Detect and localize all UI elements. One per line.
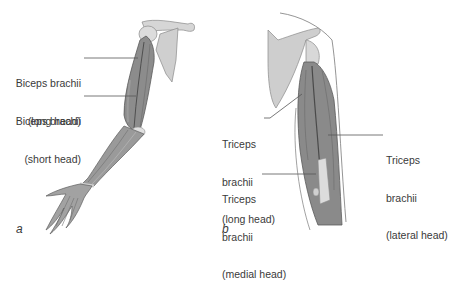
label-line: (short head) (10, 153, 81, 166)
label-biceps-short-head: Biceps brachii (short head) (10, 90, 81, 178)
label-line: Biceps brachii (10, 115, 81, 128)
forearm (80, 126, 144, 186)
label-line: Biceps brachii (10, 77, 81, 90)
label-line: brachii (386, 192, 448, 205)
panel-letter-a: a (16, 222, 23, 236)
label-triceps-lateral-head: Triceps brachii (lateral head) (386, 129, 448, 254)
scapula (156, 28, 178, 82)
panel-letter-b: b (222, 222, 229, 236)
label-triceps-medial-head: Triceps brachii (medial head) (222, 168, 286, 284)
label-line: (medial head) (222, 268, 286, 281)
label-line: (lateral head) (386, 229, 448, 242)
label-line: brachii (222, 231, 286, 244)
label-line: Triceps (386, 154, 448, 167)
label-line: Triceps (222, 138, 275, 151)
label-line: Triceps (222, 193, 286, 206)
